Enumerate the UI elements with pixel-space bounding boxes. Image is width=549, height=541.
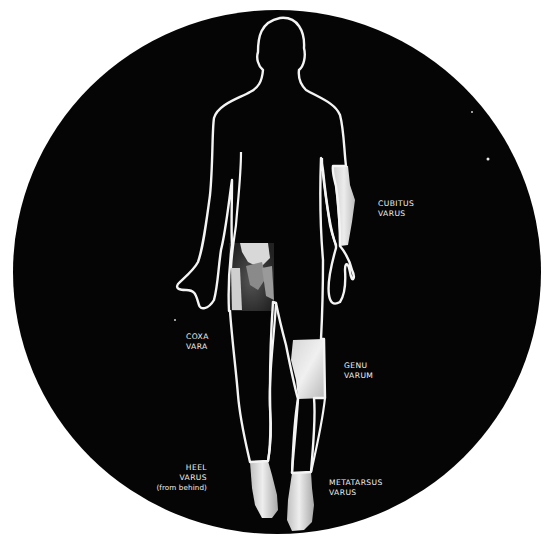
black-disc [13,10,541,534]
label-coxa-vara: COXA VARA [186,332,209,352]
label-heel-varus-line1: HEEL [147,463,207,473]
label-cubitus-varus-line2: VARUS [378,209,414,219]
label-genu-varum-line1: GENU [344,361,373,371]
label-genu-varum: GENU VARUM [344,361,373,381]
hip-xray [229,243,274,311]
label-genu-varum-line2: VARUM [344,371,373,381]
label-metatarsus-varus: METATARSUS VARUS [329,478,383,498]
label-metatarsus-varus-line1: METATARSUS [329,478,383,488]
speck [487,158,490,161]
diagram-canvas [0,0,549,541]
label-cubitus-varus: CUBITUS VARUS [378,199,414,219]
right-foot-photo [287,472,314,531]
label-coxa-vara-line1: COXA [186,332,209,342]
speck [174,319,176,321]
speck [471,111,473,113]
label-coxa-vara-line2: VARA [186,342,209,352]
varus-deformity-diagram: CUBITUS VARUS COXA VARA GENU VARUM HEEL … [0,0,549,541]
label-heel-varus: HEEL VARUS (from behind) [147,463,207,493]
label-heel-varus-note: (from behind) [147,483,207,493]
label-metatarsus-varus-line2: VARUS [329,488,383,498]
label-cubitus-varus-line1: CUBITUS [378,199,414,209]
label-heel-varus-line2: VARUS [147,473,207,483]
